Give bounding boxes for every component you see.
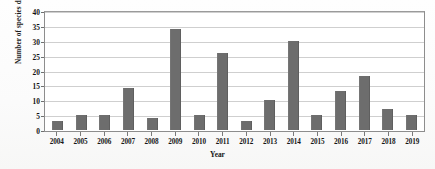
y-axis-tick-mark [41, 27, 44, 28]
y-axis-tick-label: 15 [18, 82, 40, 91]
x-axis-tick-label: 2006 [92, 136, 116, 148]
bar-slot [164, 11, 188, 130]
bar-series [46, 11, 423, 130]
bar-chart-figure: Number of species described 051015202530… [0, 0, 435, 169]
bar-slot [282, 11, 306, 130]
bar-slot [235, 11, 259, 130]
y-axis-tick-mark [41, 42, 44, 43]
bar-slot [70, 11, 94, 130]
bar-slot [376, 11, 400, 130]
y-axis-tick-label: 5 [18, 112, 40, 121]
x-axis-tick-label: 2008 [140, 136, 164, 148]
x-axis-tick-label: 2019 [400, 136, 424, 148]
y-axis-tick-label: 20 [18, 68, 40, 77]
bar [147, 118, 158, 130]
bar [264, 100, 275, 130]
bar [241, 121, 252, 130]
x-axis-tick-label: 2014 [282, 136, 306, 148]
plot-area [44, 11, 425, 132]
x-axis-tick-label: 2018 [377, 136, 401, 148]
bar-slot [93, 11, 117, 130]
bar [406, 115, 417, 130]
x-axis-tick-label: 2016 [329, 136, 353, 148]
y-axis-tick-label: 0 [18, 127, 40, 136]
bar-slot [117, 11, 141, 130]
x-axis-tick-label: 2011 [211, 136, 235, 148]
bar [311, 115, 322, 130]
bar [170, 29, 181, 130]
bar [99, 115, 110, 130]
x-axis-tick-label: 2005 [69, 136, 93, 148]
y-axis-tick-mark [41, 86, 44, 87]
x-axis-tick-labels: 2004200520062007200820092010201120122013… [45, 136, 424, 148]
y-axis-tick-label: 10 [18, 97, 40, 106]
x-axis-tick-label: 2009 [163, 136, 187, 148]
bar-slot [305, 11, 329, 130]
x-axis-tick-label: 2007 [116, 136, 140, 148]
x-axis-tick-label: 2017 [353, 136, 377, 148]
x-axis-title: Year [0, 150, 435, 159]
x-axis-tick-label: 2015 [306, 136, 330, 148]
bar [217, 53, 228, 130]
y-axis-title-container: Number of species described [0, 0, 18, 140]
y-axis-tick-mark [41, 116, 44, 117]
bar-slot [329, 11, 353, 130]
y-axis-tick-mark [41, 57, 44, 58]
bar [194, 115, 205, 130]
y-axis-tick-label: 30 [18, 38, 40, 47]
x-axis-tick-label: 2010 [187, 136, 211, 148]
bar [382, 109, 393, 130]
y-axis-tick-mark [41, 131, 44, 132]
bar-slot [399, 11, 423, 130]
bar-slot [187, 11, 211, 130]
bar [288, 41, 299, 130]
bar [335, 91, 346, 130]
bar [52, 121, 63, 130]
y-axis-tick-label: 40 [18, 8, 40, 17]
x-axis-tick-label: 2012 [235, 136, 259, 148]
y-axis-tick-label: 25 [18, 53, 40, 62]
bar-slot [140, 11, 164, 130]
x-axis-tick-label: 2004 [45, 136, 69, 148]
bar [359, 76, 370, 130]
y-axis-tick-label: 35 [18, 23, 40, 32]
bar-slot [258, 11, 282, 130]
x-axis-tick-label: 2013 [258, 136, 282, 148]
bar [76, 115, 87, 130]
y-axis-tick-mark [41, 101, 44, 102]
y-axis-tick-mark [41, 72, 44, 73]
bar-slot [352, 11, 376, 130]
bar [123, 88, 134, 130]
bar-slot [46, 11, 70, 130]
y-axis-tick-mark [41, 12, 44, 13]
bar-slot [211, 11, 235, 130]
